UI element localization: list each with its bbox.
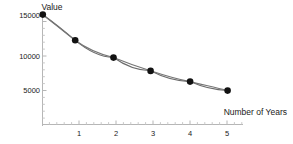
x-tick-label-3: 3 — [151, 129, 155, 138]
y-tick-label-15000: 15000 — [19, 11, 40, 20]
x-tick-label-2: 2 — [114, 129, 118, 138]
x-tick-label-1: 1 — [77, 129, 81, 138]
x-tick-label-4: 4 — [188, 129, 192, 138]
data-point — [40, 11, 47, 18]
y-tick-label-10000: 10000 — [19, 52, 40, 61]
data-point — [110, 54, 117, 61]
data-line-series-value — [43, 15, 228, 91]
data-point — [224, 87, 231, 94]
chart-container: 15000 10000 5000 1 2 3 4 5 Value Number … — [0, 0, 293, 144]
y-axis-major-ticks — [43, 22, 47, 91]
data-point-markers — [40, 11, 231, 94]
data-point — [72, 37, 79, 44]
data-curve-path — [43, 15, 228, 91]
x-axis-title: Number of Years — [224, 107, 287, 117]
x-tick-label-5: 5 — [225, 129, 229, 138]
y-tick-label-5000: 5000 — [23, 86, 40, 95]
data-point — [147, 68, 154, 75]
chart-plot-area: 15000 10000 5000 1 2 3 4 5 Value Number … — [0, 0, 293, 144]
y-axis-title: Value — [41, 2, 62, 12]
data-point — [187, 78, 194, 85]
